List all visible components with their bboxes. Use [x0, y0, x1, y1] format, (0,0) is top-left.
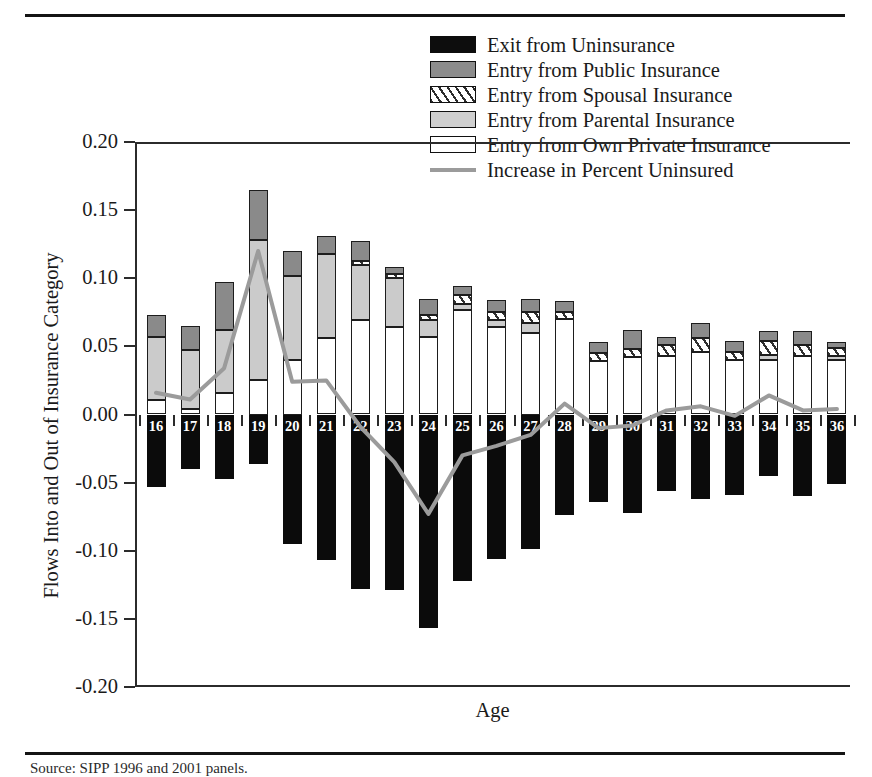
y-tick	[124, 414, 135, 416]
line-increase-in-percent-uninsured	[156, 251, 837, 514]
y-tick	[124, 550, 135, 552]
plot-area: 0.200.150.100.050.00-0.05-0.10-0.15-0.20…	[135, 142, 850, 687]
figure-container: Exit from UninsuranceEntry from Public I…	[0, 0, 872, 777]
legend-swatch-public	[430, 61, 476, 78]
bottom-rule	[25, 752, 845, 755]
y-tick-label: -0.20	[75, 676, 118, 697]
y-tick	[124, 209, 135, 211]
line-series-layer	[135, 142, 850, 687]
legend-swatch-black	[430, 36, 476, 53]
y-tick	[124, 618, 135, 620]
legend-swatch-parental	[430, 111, 476, 128]
top-rule	[25, 14, 845, 17]
y-tick-label: 0.15	[82, 199, 118, 220]
y-axis-title: Flows Into and Out of Insurance Category	[40, 146, 63, 706]
y-tick	[124, 482, 135, 484]
source-note: Source: SIPP 1996 and 2001 panels.	[30, 760, 248, 777]
legend-label: Entry from Public Insurance	[487, 60, 720, 80]
y-tick-label: 0.00	[82, 404, 118, 425]
legend-item-spousal: Entry from Spousal Insurance	[430, 82, 860, 107]
y-tick-label: 0.10	[82, 267, 118, 288]
y-tick	[124, 345, 135, 347]
x-tick	[854, 415, 856, 426]
legend-item-black: Exit from Uninsurance	[430, 32, 860, 57]
y-tick-label: -0.05	[75, 472, 118, 493]
legend-label: Entry from Spousal Insurance	[487, 85, 732, 105]
y-tick	[124, 277, 135, 279]
y-tick	[124, 686, 135, 688]
y-tick-label: 0.05	[82, 335, 118, 356]
y-tick	[124, 141, 135, 143]
y-tick-label: -0.15	[75, 608, 118, 629]
legend-swatch-spousal	[430, 86, 476, 103]
y-tick-label: -0.10	[75, 540, 118, 561]
legend-item-public: Entry from Public Insurance	[430, 57, 860, 82]
legend-label: Exit from Uninsurance	[487, 35, 675, 55]
legend-label: Entry from Parental Insurance	[487, 110, 735, 130]
legend-item-parental: Entry from Parental Insurance	[430, 107, 860, 132]
y-tick-label: 0.20	[82, 131, 118, 152]
x-axis-title: Age	[135, 699, 850, 722]
